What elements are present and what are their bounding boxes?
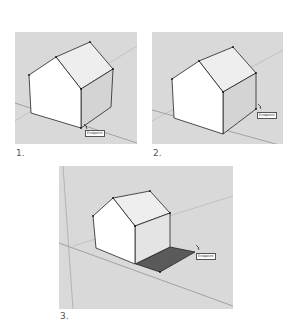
panel-label-1: 1. [16, 148, 25, 158]
viewport-panel-1: Endpoint [15, 32, 137, 144]
endpoint-tooltip: Endpoint [257, 112, 277, 119]
blue-axis-line [63, 166, 73, 309]
house-model-1 [15, 32, 137, 144]
house-model-2 [152, 32, 283, 144]
endpoint-tooltip: Endpoint [85, 130, 105, 137]
endpoint-tooltip: Endpoint [196, 253, 216, 260]
panel-label-3: 3. [60, 311, 69, 321]
pencil-cursor-icon [258, 104, 261, 109]
pencil-cursor-icon [196, 245, 199, 250]
viewport-panel-3: Endpoint [59, 166, 233, 309]
viewport-panel-2: Endpoint [152, 32, 283, 144]
panel-label-2: 2. [153, 148, 162, 158]
house-model-3 [59, 166, 233, 309]
